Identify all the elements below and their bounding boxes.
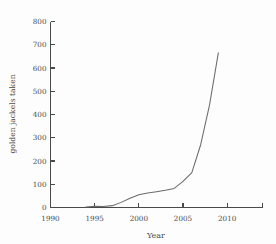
y-tick-label: 400 [33, 110, 47, 119]
x-axis-tick-labels: 19901995200020052010 [41, 214, 236, 223]
y-tick-label: 800 [33, 17, 47, 26]
data-series-group [86, 53, 219, 207]
chart-figure: 0100200300400500600700800 19901995200020… [0, 0, 276, 244]
y-tick-label: 0 [42, 203, 47, 212]
y-tick-label: 100 [33, 180, 47, 189]
y-tick-label: 500 [33, 87, 47, 96]
series-line [86, 53, 219, 207]
x-axis-ticks [51, 203, 263, 208]
x-tick-label: 1995 [86, 214, 105, 223]
y-tick-label: 600 [33, 64, 47, 73]
y-tick-label: 200 [33, 157, 47, 166]
y-axis-title: golden jackels taken [8, 74, 17, 153]
x-tick-label: 2000 [130, 214, 149, 223]
x-tick-label: 1990 [41, 214, 60, 223]
y-tick-label: 700 [33, 40, 47, 49]
x-tick-label: 2010 [218, 214, 237, 223]
x-axis-title: Year [146, 231, 165, 240]
y-tick-label: 300 [33, 133, 47, 142]
line-chart-canvas: 0100200300400500600700800 19901995200020… [0, 0, 276, 244]
y-axis-tick-labels: 0100200300400500600700800 [33, 17, 47, 212]
x-tick-label: 2005 [174, 214, 193, 223]
y-axis-ticks [51, 22, 56, 208]
